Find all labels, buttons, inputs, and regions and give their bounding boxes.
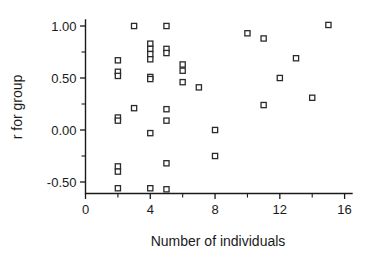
x-tick-label-16: 16: [337, 202, 351, 217]
data-point: [261, 102, 266, 107]
data-point: [131, 23, 136, 28]
x-axis-title: Number of individuals: [151, 233, 286, 249]
data-point: [310, 95, 315, 100]
data-point: [180, 80, 185, 85]
data-point: [148, 131, 153, 136]
data-point: [148, 41, 153, 46]
data-point: [115, 58, 120, 63]
data-point: [212, 153, 217, 158]
data-point: [115, 169, 120, 174]
data-point: [196, 85, 201, 90]
x-tick-label-0: 0: [82, 202, 89, 217]
data-point: [131, 106, 136, 111]
y-tick-label-0: 0.00: [51, 123, 76, 138]
y-tick-label-0.5: 0.50: [51, 71, 76, 86]
data-point: [148, 186, 153, 191]
data-point: [164, 161, 169, 166]
data-point: [164, 187, 169, 192]
y-axis-title: r for group: [9, 74, 25, 139]
data-point: [277, 75, 282, 80]
data-point: [293, 56, 298, 61]
data-point: [326, 22, 331, 27]
data-point: [164, 107, 169, 112]
data-point: [261, 36, 266, 41]
data-point: [164, 23, 169, 28]
data-point: [164, 50, 169, 55]
data-point: [164, 118, 169, 123]
x-tick-label-4: 4: [147, 202, 154, 217]
data-point: [180, 62, 185, 67]
data-point: [115, 118, 120, 123]
data-point: [148, 51, 153, 56]
data-point: [115, 164, 120, 169]
data-point: [115, 73, 120, 78]
data-point: [180, 68, 185, 73]
y-tick-label-1: 1.00: [51, 19, 76, 34]
data-point: [148, 76, 153, 81]
data-point: [212, 127, 217, 132]
x-tick-label-8: 8: [211, 202, 218, 217]
y-tick-label--0.5: -0.50: [47, 175, 77, 190]
x-tick-label-12: 12: [273, 202, 287, 217]
data-point: [148, 46, 153, 51]
data-point: [245, 31, 250, 36]
plot-canvas: -0.500.000.501.00 0481216 Number of indi…: [0, 0, 375, 262]
scatter-plot-figure: -0.500.000.501.00 0481216 Number of indi…: [0, 0, 375, 262]
data-point: [115, 186, 120, 191]
data-point: [148, 57, 153, 62]
